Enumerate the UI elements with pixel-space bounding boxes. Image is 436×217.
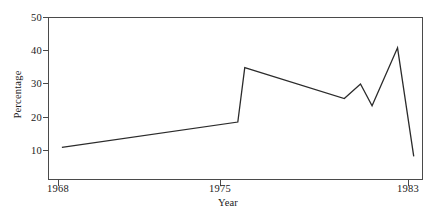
line-series-plot [48, 17, 423, 180]
x-tick-label-1983: 1983 [386, 183, 430, 195]
x-tick-label-1968: 1968 [36, 183, 80, 195]
x-tick-label-1975: 1975 [198, 183, 242, 195]
chart-figure: Percentage 50 40 30 20 10 1968 1975 1983… [0, 0, 436, 217]
y-tick-label-30: 30 [18, 78, 42, 89]
y-tick-label-50: 50 [18, 12, 42, 23]
x-axis-title-text: Year [218, 197, 238, 208]
series-polyline [62, 48, 414, 157]
y-tick-label-10: 10 [18, 145, 42, 156]
y-tick-label-40: 40 [18, 45, 42, 56]
y-axis-title: Percentage [12, 50, 23, 140]
y-tick-label-20: 20 [18, 112, 42, 123]
x-axis-title: Year [0, 197, 436, 208]
